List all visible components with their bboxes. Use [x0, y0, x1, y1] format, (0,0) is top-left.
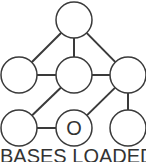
bases-diagram: O: [0, 0, 146, 162]
edge-mid-right-bot-center: [87, 88, 115, 116]
node-mid-left: [1, 57, 37, 93]
node-mid-center: [56, 57, 92, 93]
edge-top-mid-left: [32, 33, 62, 63]
nodes: O: [1, 2, 146, 146]
node-top: [56, 2, 92, 38]
edge-mid-center-bot-left: [32, 87, 61, 115]
diagram-title: BASES LOADED: [0, 146, 146, 162]
node-bot-right: [110, 110, 146, 146]
edge-top-mid-right: [87, 33, 116, 62]
node-label-bot-center: O: [66, 117, 82, 139]
node-bot-left: [1, 110, 37, 146]
node-mid-right: [110, 57, 146, 93]
